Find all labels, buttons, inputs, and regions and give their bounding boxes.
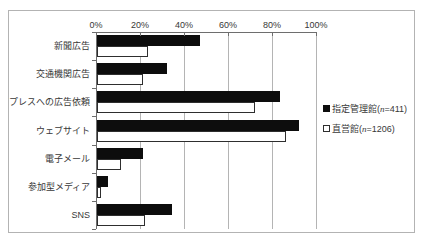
- category-axis-tick: [92, 173, 96, 174]
- bar-chart-frame: 0%20%40%60%80%100% 新聞広告交通機関広告プレスへの広告依頼ウェ…: [8, 10, 415, 233]
- category-label: 交通機関広告: [9, 69, 90, 79]
- bar-指定管理館: [97, 176, 108, 187]
- bar-指定管理館: [97, 91, 280, 102]
- value-axis-tick: [184, 32, 185, 36]
- plot-area: [96, 32, 316, 229]
- category-label: ウェブサイト: [9, 126, 90, 136]
- value-axis-line: [96, 32, 317, 33]
- bar-直営館: [97, 159, 121, 170]
- legend-marker-solid-square-icon: [323, 105, 330, 112]
- value-axis-tick: [96, 32, 97, 36]
- bar-直営館: [97, 46, 148, 57]
- bar-直営館: [97, 102, 255, 113]
- category-label: 新聞広告: [9, 41, 90, 51]
- value-axis-tick: [140, 32, 141, 36]
- value-axis-tick: [272, 32, 273, 36]
- bar-指定管理館: [97, 148, 143, 159]
- category-axis-tick: [92, 60, 96, 61]
- value-axis-tick-label: 20%: [120, 20, 160, 30]
- category-axis-tick: [92, 145, 96, 146]
- category-axis-tick: [92, 201, 96, 202]
- value-axis-tick-label: 100%: [296, 20, 336, 30]
- value-axis-tick: [316, 32, 317, 36]
- category-label: SNS: [9, 210, 90, 220]
- category-axis-tick: [92, 116, 96, 117]
- value-axis-tick-label: 0%: [76, 20, 116, 30]
- bar-指定管理館: [97, 120, 299, 131]
- category-label: 電子メール: [9, 154, 90, 164]
- legend-label: 直営館(n=1206): [332, 122, 395, 135]
- legend-label: 指定管理館(n=411): [332, 102, 407, 115]
- category-axis-line: [96, 32, 97, 229]
- bar-指定管理館: [97, 204, 172, 215]
- value-axis-tick: [228, 32, 229, 36]
- bar-直営館: [97, 74, 143, 85]
- bar-指定管理館: [97, 63, 167, 74]
- value-axis-tick-label: 80%: [252, 20, 292, 30]
- category-label: 参加型メディア: [9, 182, 90, 192]
- category-axis-tick: [92, 88, 96, 89]
- legend-marker-outline-square-icon: [323, 125, 330, 132]
- category-axis-tick: [92, 229, 96, 230]
- legend-item-指定管理館: 指定管理館(n=411): [323, 102, 415, 115]
- bar-直営館: [97, 131, 286, 142]
- bar-直営館: [97, 215, 145, 226]
- bar-直営館: [97, 187, 101, 198]
- category-label: プレスへの広告依頼: [9, 97, 90, 107]
- bar-指定管理館: [97, 35, 200, 46]
- legend-item-直営館: 直営館(n=1206): [323, 122, 415, 135]
- gridline-100%: [316, 32, 317, 229]
- category-axis-tick: [92, 32, 96, 33]
- value-axis-tick-label: 60%: [208, 20, 248, 30]
- legend: 指定管理館(n=411)直営館(n=1206): [323, 102, 415, 142]
- value-axis-tick-label: 40%: [164, 20, 204, 30]
